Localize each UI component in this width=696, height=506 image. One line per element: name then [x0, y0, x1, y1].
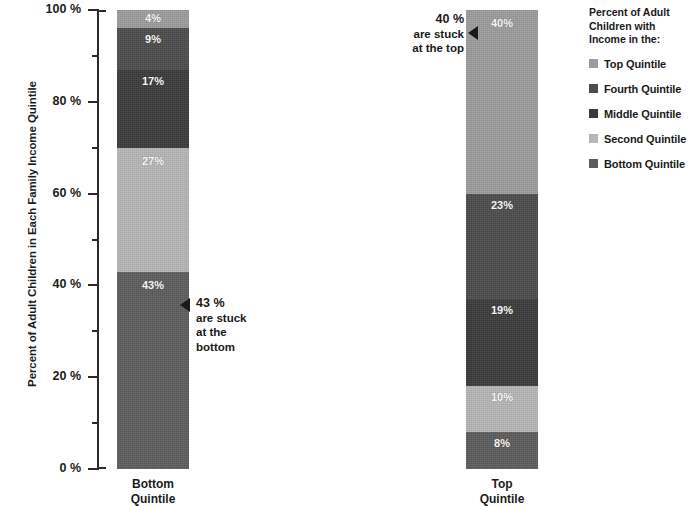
callout-bottom-value: 43 %: [196, 296, 247, 311]
y-tick-major-20: [88, 376, 99, 378]
bar-segment-top-quintile[interactable]: 4%: [117, 10, 189, 28]
bar-segment-value: 17%: [142, 75, 164, 87]
legend-item-label: Middle Quintile: [604, 108, 681, 120]
chart-canvas: Percent of Adult Children in Each Family…: [0, 0, 696, 506]
legend-swatch-icon: [589, 159, 598, 168]
arrow-left-icon: [468, 26, 478, 40]
y-tick-label-80: 80 %: [21, 94, 81, 108]
legend-swatch-icon: [589, 59, 598, 68]
callout-bottom-line3: bottom: [196, 340, 247, 355]
bar-segment-value: 40%: [491, 17, 513, 29]
y-tick-major-80: [88, 101, 99, 103]
legend-item-label: Second Quintile: [604, 133, 686, 145]
x-category-line2: Quintile: [422, 492, 582, 506]
arrow-left-icon: [180, 298, 190, 312]
y-tick-minor-50: [92, 239, 99, 241]
callout-top-value: 40 %: [378, 12, 464, 27]
x-category-line1: Top: [422, 477, 582, 492]
callout-bottom-quintile: 43 % are stuck at the bottom: [196, 296, 247, 354]
x-category-line2: Quintile: [73, 492, 233, 506]
x-category-label-bottom-quintile: Bottom Quintile: [73, 477, 233, 506]
bar-segment-value: 8%: [494, 437, 510, 449]
callout-top-quintile: 40 % are stuck at the top: [378, 12, 464, 56]
y-tick-label-0: 0 %: [21, 461, 81, 475]
y-axis-title: Percent of Adult Children in Each Family…: [26, 0, 38, 484]
bar-segment-value: 19%: [491, 304, 513, 316]
bar-segment-second-quintile[interactable]: 27%: [117, 148, 189, 272]
y-tick-label-20: 20 %: [21, 369, 81, 383]
y-tick-minor-10: [92, 422, 99, 424]
legend-title-line3: Income in the:: [589, 33, 696, 47]
bar-segment-fourth-quintile[interactable]: 23%: [466, 194, 538, 300]
legend-item-label: Bottom Quintile: [604, 158, 685, 170]
legend-item-top-quintile[interactable]: Top Quintile: [589, 58, 696, 70]
x-category-line1: Bottom: [73, 477, 233, 492]
legend-swatch-icon: [589, 84, 598, 93]
legend-item-label: Top Quintile: [604, 58, 666, 70]
legend-swatch-icon: [589, 134, 598, 143]
bar-segment-fourth-quintile[interactable]: 9%: [117, 28, 189, 69]
legend-title: Percent of Adult Children with Income in…: [589, 6, 696, 47]
bar-segment-middle-quintile[interactable]: 19%: [466, 299, 538, 386]
stacked-bar-bottom-quintile[interactable]: 4%9%17%27%43%: [117, 10, 189, 469]
stacked-bar-top-quintile[interactable]: 40%23%19%10%8%: [466, 10, 538, 469]
callout-bottom-line1: are stuck: [196, 311, 247, 326]
bar-segment-middle-quintile[interactable]: 17%: [117, 70, 189, 148]
y-tick-label-100: 100 %: [21, 2, 81, 16]
bar-segment-value: 43%: [142, 279, 164, 291]
y-tick-minor-30: [92, 330, 99, 332]
legend-swatch-icon: [589, 109, 598, 118]
bar-segment-bottom-quintile[interactable]: 43%: [117, 272, 189, 469]
y-tick-major-60: [88, 193, 99, 195]
legend-item-bottom-quintile[interactable]: Bottom Quintile: [589, 158, 696, 170]
legend-item-label: Fourth Quintile: [604, 83, 681, 95]
legend-title-line1: Percent of Adult: [589, 6, 696, 20]
legend-item-second-quintile[interactable]: Second Quintile: [589, 133, 696, 145]
x-category-label-top-quintile: Top Quintile: [422, 477, 582, 506]
legend-item-fourth-quintile[interactable]: Fourth Quintile: [589, 83, 696, 95]
bar-segment-value: 10%: [491, 391, 513, 403]
bar-segment-value: 27%: [142, 155, 164, 167]
y-tick-minor-70: [92, 147, 99, 149]
bar-segment-second-quintile[interactable]: 10%: [466, 386, 538, 432]
bar-segment-value: 4%: [145, 12, 161, 24]
y-tick-label-60: 60 %: [21, 186, 81, 200]
y-tick-major-0: [88, 468, 99, 470]
callout-bottom-line2: at the: [196, 325, 247, 340]
legend-title-line2: Children with: [589, 20, 696, 34]
bar-segment-bottom-quintile[interactable]: 8%: [466, 432, 538, 469]
bar-segment-value: 23%: [491, 199, 513, 211]
legend: Percent of Adult Children with Income in…: [589, 6, 696, 183]
legend-item-middle-quintile[interactable]: Middle Quintile: [589, 108, 696, 120]
bar-segment-value: 9%: [145, 33, 161, 45]
legend-items: Top QuintileFourth QuintileMiddle Quinti…: [589, 58, 696, 170]
y-tick-major-100: [88, 9, 99, 11]
callout-top-line2: at the top: [378, 41, 464, 56]
y-tick-minor-90: [92, 55, 99, 57]
callout-top-line1: are stuck: [378, 27, 464, 42]
y-tick-label-40: 40 %: [21, 277, 81, 291]
y-tick-major-40: [88, 284, 99, 286]
